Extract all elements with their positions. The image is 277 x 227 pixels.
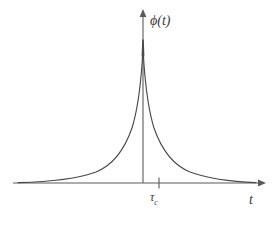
y-axis-label: ϕ(t) <box>150 13 170 29</box>
x-axis-label: t <box>249 192 253 208</box>
y-axis-arrowhead <box>140 9 147 17</box>
tau-subscript: c <box>154 198 158 207</box>
correlation-function-figure: ϕ(t) t τc <box>0 0 277 227</box>
tick-label-tau-c: τc <box>150 190 158 206</box>
peak-cusp <box>142 40 143 56</box>
phi-decay-curve <box>18 47 256 183</box>
plot-canvas <box>0 0 277 227</box>
x-axis-arrowhead <box>258 179 266 186</box>
y-axis <box>140 9 147 183</box>
